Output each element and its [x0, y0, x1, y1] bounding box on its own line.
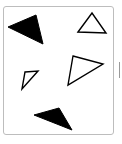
filled-triangle-top-left — [8, 15, 43, 44]
filled-triangle-bottom — [34, 108, 72, 130]
outline-triangle-middle-right — [68, 56, 103, 85]
outline-triangle-top-right — [78, 13, 106, 33]
shapes-canvas — [0, 0, 122, 144]
outline-triangle-small-left — [22, 71, 38, 89]
